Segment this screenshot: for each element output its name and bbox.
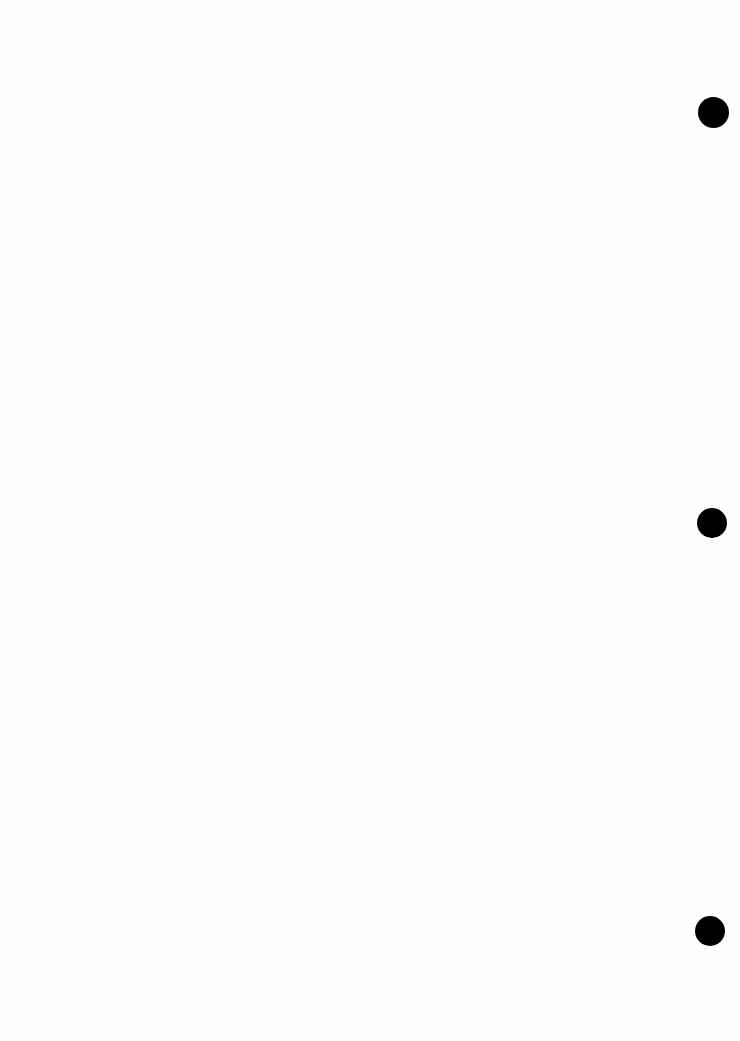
punch-hole-middle (697, 508, 727, 538)
scan-speck (300, 611, 302, 613)
blank-scanned-page (0, 0, 740, 1041)
scan-speck (165, 969, 167, 971)
scan-speck (300, 965, 302, 967)
punch-hole-top (698, 97, 729, 128)
punch-hole-bottom (695, 916, 725, 946)
